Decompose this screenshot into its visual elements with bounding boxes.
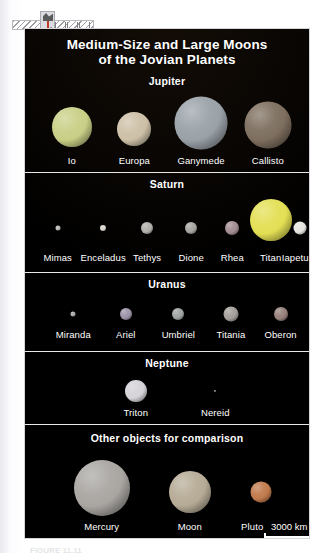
plate-title-line-2: of the Jovian Planets <box>25 52 309 67</box>
moon-callisto <box>244 102 291 149</box>
scale-bar-group: 3000 km <box>25 432 309 538</box>
moon-label-umbriel: Umbriel <box>162 329 195 340</box>
panel-divider-3 <box>25 351 309 352</box>
moons-comparison-plate: Medium-Size and Large Moons of the Jovia… <box>24 28 310 539</box>
panel-saturn: Saturn Mimas Enceladus Tethys Dione Rhea… <box>25 178 309 271</box>
moon-dione <box>185 222 197 234</box>
moon-oberon <box>274 307 288 321</box>
moon-iapetus <box>294 222 307 235</box>
moon-label-europa: Europa <box>119 155 150 166</box>
scale-bar-cap-left <box>264 533 266 539</box>
figure-caption: FIGURE 11.11 <box>30 546 82 553</box>
moon-label-titan: Titan <box>260 252 281 263</box>
moon-umbriel <box>172 308 184 320</box>
moon-label-io: Io <box>68 155 76 166</box>
moon-label-dione: Dione <box>178 252 203 263</box>
panel-neptune: Neptune Triton Nereid <box>25 357 309 423</box>
moon-titan <box>250 199 292 241</box>
plate-title-line-1: Medium-Size and Large Moons <box>25 37 309 52</box>
scale-bar-label: 3000 km <box>271 521 307 532</box>
panel-divider-1 <box>25 172 309 173</box>
moon-triton <box>125 380 147 402</box>
moon-label-ganymede: Ganymede <box>177 155 224 166</box>
moon-europa <box>117 112 151 146</box>
panel-divider-4 <box>25 424 309 425</box>
moon-label-tethys: Tethys <box>133 252 161 263</box>
panel-uranus: Uranus Miranda Ariel Umbriel Titania Obe… <box>25 278 309 350</box>
moon-rhea <box>225 221 239 235</box>
moon-label-rhea: Rhea <box>221 252 244 263</box>
figure-root: Medium-Size and Large Moons of the Jovia… <box>0 0 334 553</box>
moon-label-enceladus: Enceladus <box>80 252 125 263</box>
moon-ganymede <box>175 97 228 150</box>
moon-label-miranda: Miranda <box>56 329 91 340</box>
moon-tethys <box>141 222 153 234</box>
moon-label-triton: Triton <box>123 407 148 418</box>
moon-io <box>52 107 92 147</box>
moon-label-nereid: Nereid <box>201 407 230 418</box>
panel-jupiter: Jupiter Io Europa Ganymede Callisto <box>25 75 309 171</box>
moon-miranda <box>71 312 76 317</box>
moon-label-callisto: Callisto <box>252 155 284 166</box>
moon-label-titania: Titania <box>216 329 245 340</box>
moon-nereid <box>214 390 216 392</box>
moon-mimas <box>55 226 60 231</box>
scale-bar-line <box>264 536 310 538</box>
moon-label-iapetus: Iapetus <box>282 252 310 263</box>
panel-other-objects: Other objects for comparison Mercury Moo… <box>25 432 309 538</box>
moon-label-mimas: Mimas <box>43 252 71 263</box>
panel-divider-2 <box>25 272 309 273</box>
moon-ariel <box>120 308 132 320</box>
moon-titania <box>223 307 238 322</box>
marker-glyph-top-icon <box>43 13 53 21</box>
moon-label-oberon: Oberon <box>264 329 296 340</box>
moon-enceladus <box>100 225 106 231</box>
marker-red-bar <box>47 21 49 28</box>
moon-label-ariel: Ariel <box>116 329 136 340</box>
